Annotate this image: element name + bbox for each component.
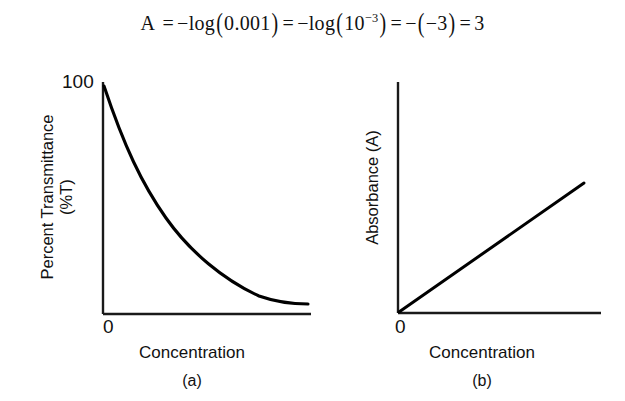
equation-exponent-2: −3 bbox=[365, 11, 379, 25]
y-axis-label-a-line2: (%T) bbox=[57, 112, 76, 282]
equation-lhs: A bbox=[141, 12, 155, 34]
equation-minus-1: − bbox=[177, 12, 189, 34]
y-axis-label-a: Percent Transmittance (%T) bbox=[38, 112, 76, 282]
equation-base-2: 10 bbox=[344, 12, 365, 34]
absorbance-equation: A =−log(0.001)=−log(10−3)=−(−3)=3 bbox=[141, 8, 485, 38]
equation-equals-2: = bbox=[280, 12, 298, 34]
absorbance-line bbox=[399, 183, 584, 312]
x-axis-label-a: Concentration bbox=[92, 343, 292, 363]
equation-equals-4: = bbox=[457, 12, 475, 34]
paren-open-3: ( bbox=[417, 3, 426, 44]
equation-equals-1: = bbox=[159, 12, 177, 34]
y-tick-100-a: 100 bbox=[62, 71, 94, 93]
x-axis-label-b: Concentration bbox=[382, 343, 582, 363]
figure-caption-a: (a) bbox=[92, 372, 292, 390]
equation-equals-3: = bbox=[388, 12, 406, 34]
absorbance-plot bbox=[312, 60, 612, 340]
y-axis-label-b-line1: Absorbance (A) bbox=[363, 130, 381, 245]
equation-result: 3 bbox=[474, 12, 484, 34]
equation-arg-3: −3 bbox=[426, 12, 448, 34]
transmittance-curve bbox=[104, 86, 308, 304]
paren-close-2: ) bbox=[379, 3, 388, 44]
figure-panel-b: 0 Absorbance (A) Concentration (b) bbox=[312, 60, 612, 401]
equation-log-1: log bbox=[189, 12, 215, 34]
paren-close-3: ) bbox=[448, 3, 457, 44]
equation-minus-3: − bbox=[405, 12, 417, 34]
paren-close-1: ) bbox=[271, 3, 280, 44]
equation-arg-1: 0.001 bbox=[224, 12, 271, 34]
paren-open-1: ( bbox=[215, 3, 224, 44]
paren-open-2: ( bbox=[335, 3, 344, 44]
equation-log-2: log bbox=[309, 12, 335, 34]
equation-block: A =−log(0.001)=−log(10−3)=−(−3)=3 bbox=[0, 8, 625, 38]
figure-caption-b: (b) bbox=[382, 372, 582, 390]
y-axis-label-a-line1: Percent Transmittance bbox=[38, 114, 56, 279]
figure-panel-a: 100 0 Percent Transmittance (%T) Concent… bbox=[14, 60, 314, 401]
origin-tick-b: 0 bbox=[395, 316, 406, 338]
equation-minus-2: − bbox=[297, 12, 309, 34]
y-axis-label-b: Absorbance (A) bbox=[363, 103, 382, 273]
origin-tick-a: 0 bbox=[103, 316, 114, 338]
